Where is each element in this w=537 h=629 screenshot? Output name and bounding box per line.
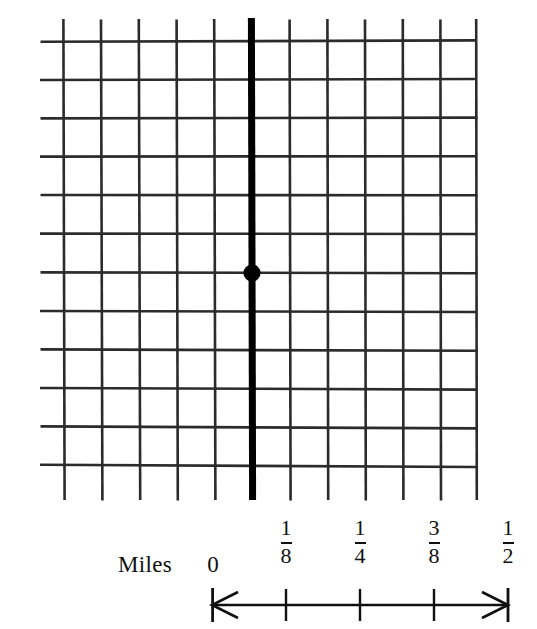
fraction-one-half: 1 2 [501,517,516,568]
fraction-numerator: 1 [353,517,368,540]
fraction-numerator: 3 [427,517,442,540]
scale-label-3: 3 8 [410,517,458,568]
fraction-denominator: 8 [279,545,294,568]
scale-label-2: 1 4 [336,517,384,568]
fraction-denominator: 4 [353,545,368,568]
fraction-denominator: 8 [427,545,442,568]
fraction-numerator: 1 [501,517,516,540]
fraction-one-quarter: 1 4 [353,517,368,568]
fraction-three-eighths: 3 8 [427,517,442,568]
fraction-denominator: 2 [501,545,516,568]
scale-label-4: 1 2 [484,517,532,568]
fraction-numerator: 1 [279,517,294,540]
fraction-one-eighth: 1 8 [279,517,294,568]
scale-unit-label: Miles [118,553,198,576]
scale-label-0: 0 [198,553,228,576]
map-figure: Miles 0 1 8 1 4 3 8 1 2 [0,0,537,629]
scale-label-1: 1 8 [262,517,310,568]
